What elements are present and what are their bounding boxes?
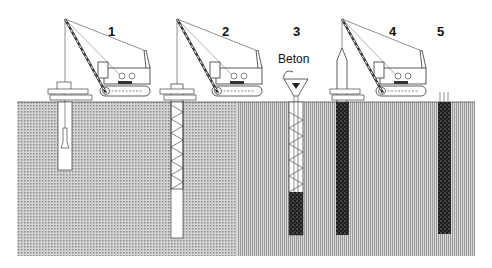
concrete-column-4: [336, 102, 349, 235]
pile-construction-diagram: 1 2 3 4 5 Beton: [0, 0, 492, 268]
step-label-3: 3: [293, 24, 300, 39]
step-5-finished-pile: [438, 92, 451, 234]
step-label-5: 5: [437, 24, 444, 39]
step-label-1: 1: [108, 24, 115, 39]
diagram-canvas: [0, 0, 492, 268]
concrete-fill: [289, 192, 303, 235]
concrete-label: Beton: [278, 52, 309, 66]
step-label-4: 4: [389, 24, 396, 39]
concrete-column-5: [438, 102, 451, 234]
step-label-2: 2: [222, 24, 229, 39]
soil-left: [17, 102, 237, 256]
